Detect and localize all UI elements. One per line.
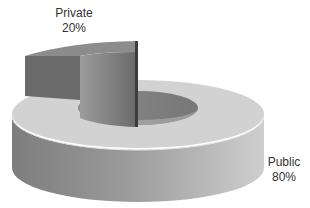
label-public-pct: 80% <box>262 170 306 185</box>
label-private-pct: 20% <box>52 21 96 36</box>
label-private-name: Private <box>52 6 96 21</box>
label-public-name: Public <box>262 155 306 170</box>
label-private: Private 20% <box>52 6 96 36</box>
label-public: Public 80% <box>262 155 306 185</box>
